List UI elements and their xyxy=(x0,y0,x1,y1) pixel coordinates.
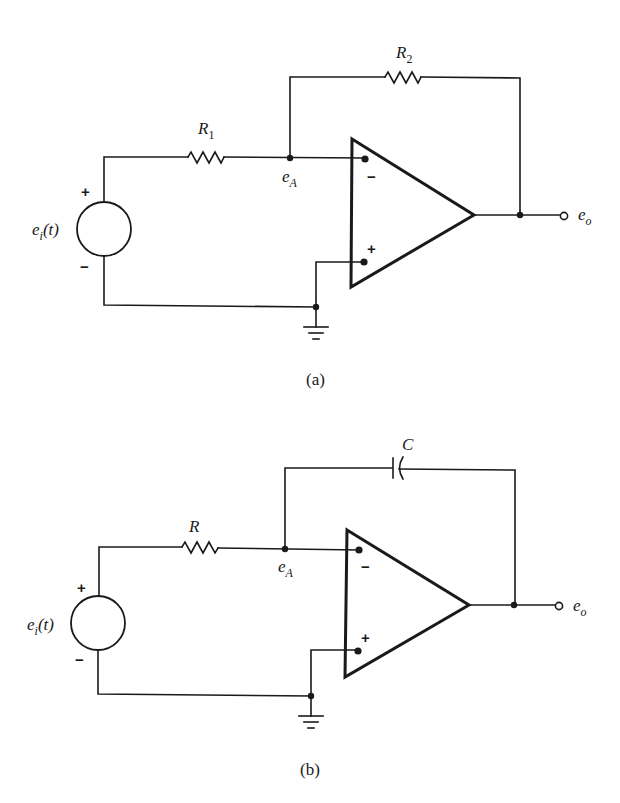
capacitor-c-icon xyxy=(393,457,403,479)
r2-label: R2 xyxy=(395,43,412,66)
wire-feedback-left-b xyxy=(285,468,392,549)
output-terminal-icon xyxy=(560,212,567,219)
source-label-a: ei(t) xyxy=(32,220,59,243)
noninverting-sign-a: + xyxy=(367,240,376,257)
voltage-source-icon xyxy=(71,596,125,650)
circuit-panel-a: ei(t) + − R1 R2 eA − + eo (a) xyxy=(32,43,592,389)
ground-node-dot xyxy=(313,304,319,310)
node-ea-label-a: eA xyxy=(282,167,298,190)
inverting-sign-b: − xyxy=(361,558,370,575)
resistor-r-icon xyxy=(182,542,218,553)
opamp-triangle-icon xyxy=(345,530,469,677)
source-plus-sign-b: + xyxy=(77,579,86,596)
wire-feedback-right-b xyxy=(399,469,515,605)
source-minus-sign-a: − xyxy=(80,258,89,275)
wire-source-to-ground xyxy=(104,255,316,307)
caption-b: (b) xyxy=(300,760,320,779)
wire-r-to-inverting-input xyxy=(218,548,359,550)
ground-icon xyxy=(299,716,323,728)
c-label: C xyxy=(402,435,414,454)
wire-source-to-ground-b xyxy=(98,650,311,696)
r-label: R xyxy=(188,517,200,536)
output-node-dot xyxy=(511,602,517,608)
noninverting-sign-b: + xyxy=(361,629,370,646)
source-plus-sign-a: + xyxy=(81,183,90,200)
wire-ground-to-noninverting-b xyxy=(311,650,358,716)
wire-source-to-r1 xyxy=(104,157,188,203)
wire-ground-to-noninverting xyxy=(316,262,363,327)
inverting-sign-a: − xyxy=(367,168,376,185)
resistor-r2-icon xyxy=(385,72,421,83)
opamp-triangle-icon xyxy=(351,139,474,287)
output-node-dot xyxy=(517,212,523,218)
output-label-a: eo xyxy=(578,205,592,228)
noninverting-input-dot xyxy=(360,258,367,265)
r1-label: R1 xyxy=(197,119,214,142)
node-ea-dot xyxy=(282,546,288,552)
ground-node-dot xyxy=(308,693,314,699)
wire-r1-to-inverting-input xyxy=(224,157,365,158)
voltage-source-icon xyxy=(77,202,131,256)
ground-icon xyxy=(304,327,328,339)
source-label-b: ei(t) xyxy=(27,615,54,638)
noninverting-input-dot xyxy=(354,647,361,654)
circuit-panel-b: ei(t) + − R C eA − + eo (b) xyxy=(27,435,587,779)
node-ea-dot xyxy=(287,155,293,161)
wire-feedback-right xyxy=(421,77,520,215)
resistor-r1-icon xyxy=(188,152,224,163)
wire-feedback-left xyxy=(290,77,385,158)
op-amp-circuit-figure: ei(t) + − R1 R2 eA − + eo (a) xyxy=(0,0,620,803)
caption-a: (a) xyxy=(306,370,325,389)
source-minus-sign-b: − xyxy=(75,651,84,668)
wire-source-to-r xyxy=(99,547,182,596)
output-terminal-icon xyxy=(555,602,562,609)
inverting-input-dot xyxy=(361,155,368,162)
output-label-b: eo xyxy=(573,596,587,619)
inverting-input-dot xyxy=(355,546,362,553)
node-ea-label-b: eA xyxy=(278,557,294,580)
